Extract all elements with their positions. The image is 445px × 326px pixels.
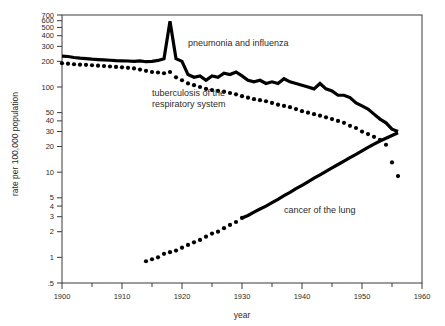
series-dot bbox=[156, 70, 160, 74]
y-tick-label: 300 bbox=[41, 42, 54, 51]
series-dot bbox=[150, 70, 154, 74]
series-dot bbox=[126, 66, 130, 70]
series-dot bbox=[276, 103, 280, 107]
series-dot bbox=[162, 252, 166, 256]
series-dot bbox=[252, 97, 256, 101]
series-dot bbox=[132, 66, 136, 70]
series-dot bbox=[258, 98, 262, 102]
series-dot bbox=[114, 65, 118, 69]
series-dot bbox=[144, 259, 148, 263]
data-series-layer bbox=[60, 21, 400, 263]
x-axis-tick-labels: 1900191019201930194019501960 bbox=[54, 292, 431, 301]
series-dot bbox=[300, 109, 304, 113]
series-dot bbox=[162, 71, 166, 75]
chart-canvas: .5123451020304050100200300400500600700 1… bbox=[0, 0, 445, 326]
y-axis-title: rate per 100,000 population bbox=[10, 92, 20, 196]
series-dot bbox=[204, 235, 208, 239]
series-dot bbox=[186, 81, 190, 85]
y-tick-label: 5 bbox=[50, 193, 54, 202]
series-dots bbox=[144, 216, 244, 263]
mortality-rates-chart: .5123451020304050100200300400500600700 1… bbox=[0, 0, 445, 326]
x-tick-label: 1960 bbox=[414, 292, 431, 301]
series-dot bbox=[222, 226, 226, 230]
series-dot bbox=[234, 92, 238, 96]
series-dots bbox=[60, 61, 400, 178]
x-tick-label: 1930 bbox=[234, 292, 251, 301]
series-dot bbox=[96, 64, 100, 68]
series-dot bbox=[264, 99, 268, 103]
series-dot bbox=[330, 117, 334, 121]
series-dot bbox=[198, 238, 202, 242]
series-dot bbox=[90, 63, 94, 67]
series-dot bbox=[234, 220, 238, 224]
y-tick-label: 10 bbox=[46, 168, 54, 177]
series-dot bbox=[282, 104, 286, 108]
series-dot bbox=[240, 94, 244, 98]
x-tick-label: 1920 bbox=[174, 292, 191, 301]
series-dot bbox=[138, 68, 142, 72]
series-dot bbox=[312, 112, 316, 116]
series-dot bbox=[342, 121, 346, 125]
series-dot bbox=[390, 160, 394, 164]
x-tick-label: 1900 bbox=[54, 292, 71, 301]
series-dot bbox=[216, 230, 220, 234]
series-cancer-of-the-lung bbox=[144, 133, 398, 264]
y-axis-ticks bbox=[57, 15, 62, 283]
y-tick-label: 700 bbox=[41, 11, 54, 20]
y-tick-label: 50 bbox=[46, 108, 54, 117]
series-dot bbox=[192, 83, 196, 87]
series-dot bbox=[72, 62, 76, 66]
y-axis-tick-labels: .5123451020304050100200300400500600700 bbox=[41, 11, 54, 288]
series-dot bbox=[180, 246, 184, 250]
series-dot bbox=[174, 249, 178, 253]
series-dot bbox=[306, 111, 310, 115]
y-tick-label: 30 bbox=[46, 127, 54, 136]
y-tick-label: 40 bbox=[46, 116, 54, 125]
series-dot bbox=[348, 124, 352, 128]
series-dot bbox=[192, 240, 196, 244]
x-tick-label: 1950 bbox=[354, 292, 371, 301]
y-tick-label: 200 bbox=[41, 57, 54, 66]
x-tick-label: 1910 bbox=[114, 292, 131, 301]
series-dot bbox=[228, 91, 232, 95]
series-dot bbox=[228, 223, 232, 227]
series-dot bbox=[180, 78, 184, 82]
series-dot bbox=[336, 119, 340, 123]
series-dot bbox=[174, 75, 178, 79]
series-dot bbox=[372, 135, 376, 139]
series-dot bbox=[318, 114, 322, 118]
y-tick-label: 20 bbox=[46, 142, 54, 151]
series-dot bbox=[366, 132, 370, 136]
series-dot bbox=[144, 69, 148, 73]
series-dot bbox=[324, 115, 328, 119]
series-dot bbox=[270, 101, 274, 105]
series-dot bbox=[156, 255, 160, 259]
series-dot bbox=[384, 143, 388, 147]
y-tick-label: 100 bbox=[41, 83, 54, 92]
y-tick-label: .5 bbox=[48, 279, 54, 288]
series-dot bbox=[108, 64, 112, 68]
series-dot bbox=[60, 61, 64, 65]
series-dot bbox=[186, 243, 190, 247]
series-dot bbox=[78, 63, 82, 67]
x-axis-title: year bbox=[234, 310, 251, 320]
series-dot bbox=[66, 62, 70, 66]
series-dot bbox=[294, 107, 298, 111]
series-annotation: tuberculosis of therespiratory system bbox=[152, 88, 226, 109]
y-tick-label: 3 bbox=[50, 212, 54, 221]
y-tick-label: 1 bbox=[50, 253, 54, 262]
series-dot bbox=[396, 174, 400, 178]
series-dot bbox=[84, 63, 88, 67]
series-dot bbox=[360, 129, 364, 133]
series-dot bbox=[210, 232, 214, 236]
series-dot bbox=[120, 65, 124, 69]
x-axis-ticks bbox=[62, 283, 422, 289]
series-dot bbox=[168, 70, 172, 74]
series-dot bbox=[168, 250, 172, 254]
series-dot bbox=[246, 96, 250, 100]
x-tick-label: 1940 bbox=[294, 292, 311, 301]
series-dot bbox=[150, 257, 154, 261]
series-annotation: cancer of the lung bbox=[284, 205, 356, 215]
series-dot bbox=[354, 126, 358, 130]
y-tick-label: 4 bbox=[50, 202, 54, 211]
